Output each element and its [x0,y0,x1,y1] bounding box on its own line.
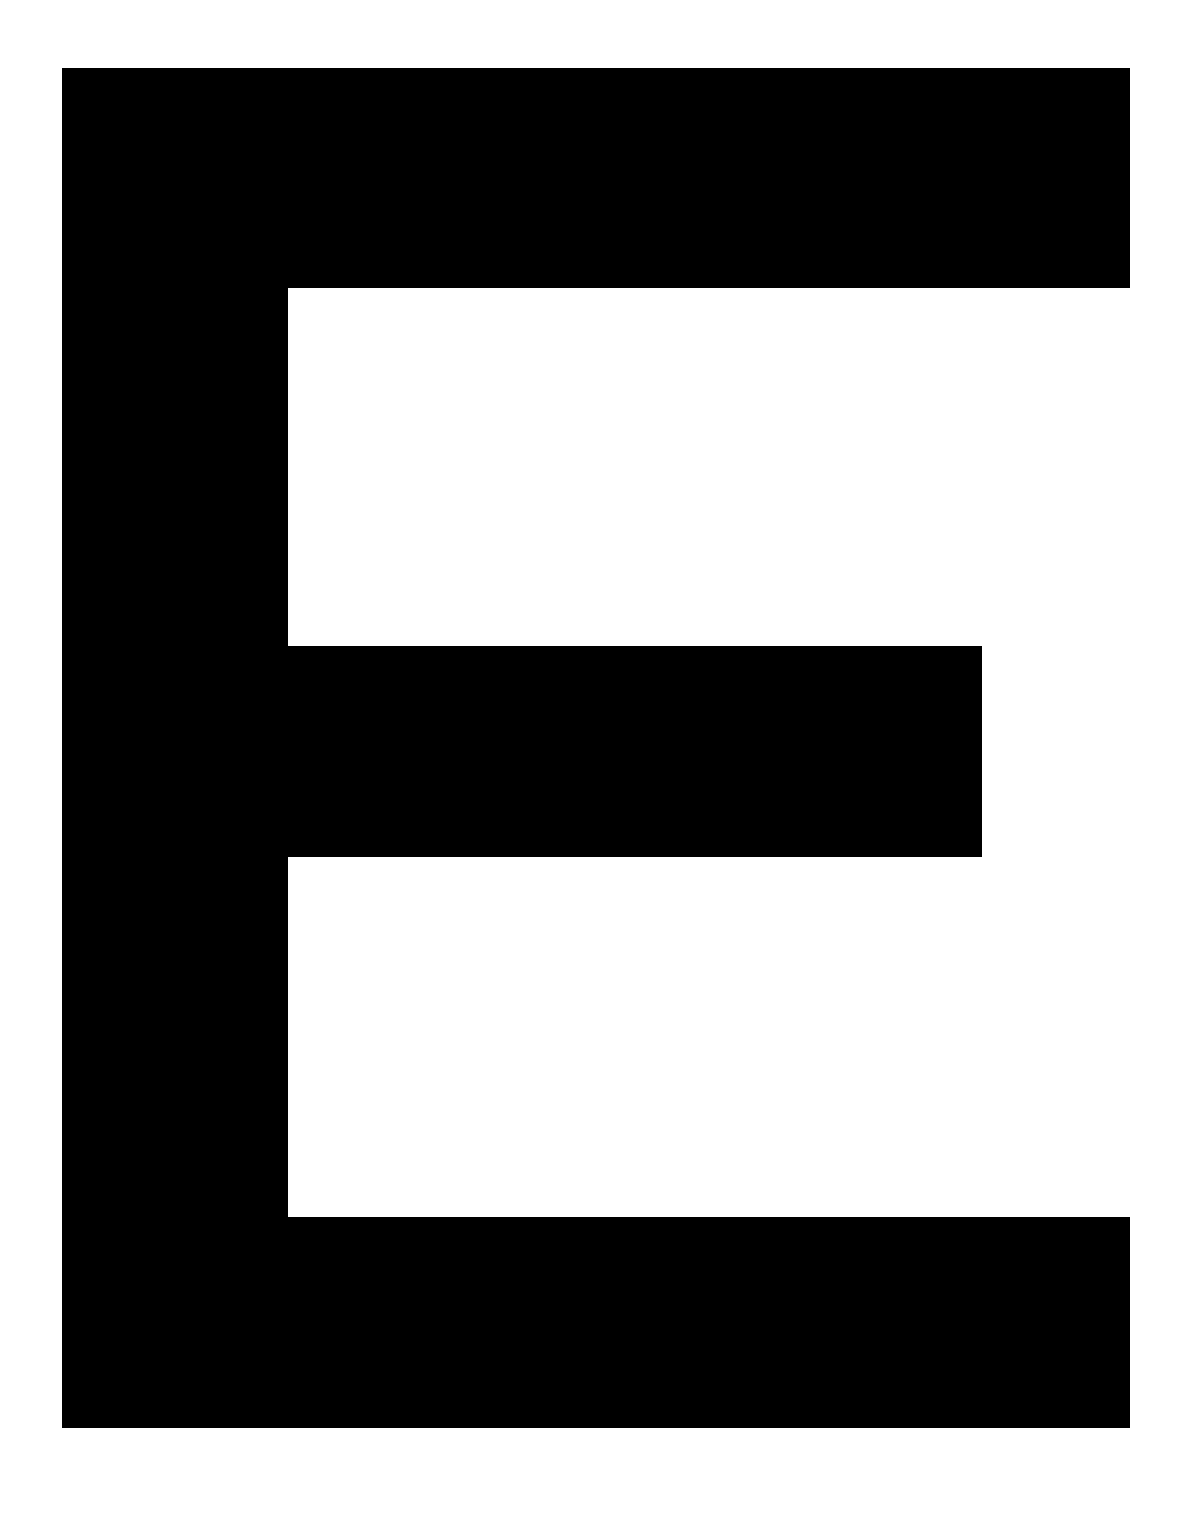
letter-e-glyph [0,0,1185,1519]
middle-arm [288,646,982,857]
letter-specimen-page: E Latin Capital Letter E [0,0,1185,1519]
top-arm [62,68,1130,288]
bottom-arm [62,1217,1130,1428]
